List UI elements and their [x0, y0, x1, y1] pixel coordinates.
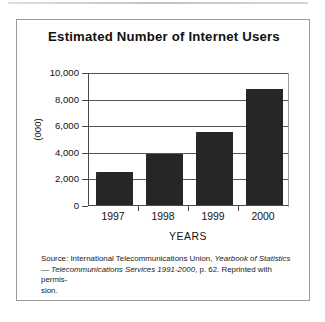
x-axis-tick-label: 1998	[138, 211, 188, 222]
x-axis-tick-label: 2000	[238, 211, 288, 222]
y-axis-tick-mark	[82, 179, 88, 180]
y-axis-tick-label: 2,000	[21, 173, 79, 184]
y-axis-tick-label: 8,000	[21, 94, 79, 105]
source-line1-prefix: Source: International Telecommunications…	[41, 254, 215, 263]
bar-1999	[196, 132, 233, 205]
source-caption: Source: International Telecommunications…	[41, 254, 293, 296]
y-axis-tick-mark	[82, 206, 88, 207]
figure-frame: Estimated Number of Internet Users (000)…	[16, 19, 310, 301]
plot-right-border	[288, 73, 289, 207]
source-line3: sion.	[41, 286, 58, 295]
y-axis-tick-label: 4,000	[21, 147, 79, 158]
y-axis-tick-label: 6,000	[21, 120, 79, 131]
plot-area	[88, 73, 288, 206]
source-line1-italic: Yearbook of Statistics	[215, 254, 291, 263]
x-axis-title: YEARS	[88, 231, 288, 242]
y-axis-tick-mark	[82, 126, 88, 127]
bar-1998	[146, 154, 183, 205]
y-axis-tick-mark	[82, 153, 88, 154]
bar-1997	[96, 172, 133, 205]
x-axis-tick-label: 1997	[88, 211, 138, 222]
y-axis-tick-label: 0	[21, 200, 79, 211]
scan-edge-artifact	[8, 2, 308, 4]
y-axis-tick-mark	[82, 100, 88, 101]
y-axis-tick-mark	[82, 73, 88, 74]
source-line2-dash: —	[41, 265, 51, 274]
bar-2000	[246, 89, 283, 205]
gridline	[89, 73, 289, 74]
x-axis-tick-label: 1999	[188, 211, 238, 222]
y-axis-tick-label: 10,000	[21, 67, 79, 78]
source-line2-italic: Telecommunications Services 1991-2000	[51, 265, 195, 274]
